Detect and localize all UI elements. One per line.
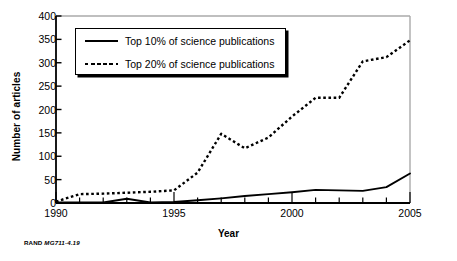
- chart-figure: Number of articles 050100150200250300350…: [0, 0, 457, 261]
- figure-credit: RAND MG711-4.19: [24, 239, 80, 246]
- legend-item: Top 10% of science publications: [76, 29, 285, 52]
- credit-figure-id: MG711-4.19: [44, 239, 79, 246]
- series-line-top10: [56, 174, 410, 203]
- chart-legend: Top 10% of science publications Top 20% …: [75, 28, 286, 75]
- legend-key-solid: [85, 36, 118, 46]
- legend-item: Top 20% of science publications: [76, 52, 285, 75]
- legend-key-dotted: [85, 59, 118, 69]
- legend-label: Top 20% of science publications: [125, 58, 274, 70]
- x-axis-label: Year: [0, 228, 457, 239]
- credit-org: RAND: [24, 239, 42, 246]
- legend-label: Top 10% of science publications: [125, 35, 274, 47]
